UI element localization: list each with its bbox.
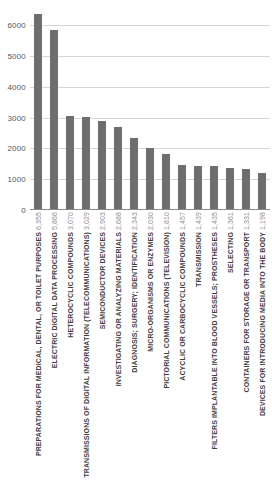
x-label-slot: CONTAINERS FOR STORAGE OR TRANSPORT 1,33… (238, 212, 254, 488)
x-tick-label-category: TRANSMISSIONS OF DIGITAL INFORMATION (TE… (83, 232, 90, 478)
x-axis-labels: PREPARATIONS FOR MEDICAL, DENTAL, OR TOI… (30, 212, 270, 488)
x-tick-label: CONTAINERS FOR STORAGE OR TRANSPORT 1,33… (243, 212, 250, 392)
bar[interactable] (258, 173, 266, 210)
x-tick-label: DEVICES FOR INTRODUCING MEDIA INTO THE B… (259, 212, 266, 416)
bar[interactable] (210, 166, 218, 210)
y-tick-label: 5000 (7, 52, 26, 61)
x-label-slot: MICRO-ORGANISMS OR ENZYMES 2,030 (142, 212, 158, 488)
x-tick-label-category: SEMICONDUCTOR DEVICES (99, 232, 106, 329)
x-tick-label-value: 6,355 (35, 212, 42, 232)
y-tick-label: 4000 (7, 82, 26, 91)
x-tick-label: TRANSMISSION 1,439 (195, 212, 202, 287)
x-tick-label-value: 1,439 (195, 212, 202, 232)
y-axis: 0100020003000400050006000 (0, 0, 30, 220)
x-tick-label-category: TRANSMISSION (195, 232, 202, 287)
x-tick-label-category: ACYCLIC OR CARBOCYCLIC COMPOUNDS (179, 232, 186, 381)
x-tick-label: INVESTIGATING OR ANALYZING MATERIALS 2,6… (115, 212, 122, 386)
x-label-slot: HETEROCYCLIC COMPOUNDS 3,070 (62, 212, 78, 488)
bars-group (30, 10, 270, 210)
x-label-slot: DIAGNOSIS; SURGERY; IDENTIFICATION 2,343 (126, 212, 142, 488)
x-tick-label-category: ELECTRIC DIGITAL DATA PROCESSING (51, 232, 58, 368)
x-tick-label-category: DEVICES FOR INTRODUCING MEDIA INTO THE B… (259, 232, 266, 416)
y-tick-label: 1000 (7, 175, 26, 184)
x-tick-label-value: 2,030 (147, 212, 154, 232)
x-tick-label-value: 3,029 (83, 212, 90, 232)
bar[interactable] (178, 165, 186, 210)
y-tick-label: 3000 (7, 113, 26, 122)
x-tick-label: TRANSMISSIONS OF DIGITAL INFORMATION (TE… (83, 212, 90, 478)
x-label-slot: TRANSMISSION 1,439 (190, 212, 206, 488)
x-axis-line (30, 209, 270, 210)
x-label-slot: INVESTIGATING OR ANALYZING MATERIALS 2,6… (110, 212, 126, 488)
bar[interactable] (226, 168, 234, 210)
bar[interactable] (114, 127, 122, 210)
x-label-slot: PREPARATIONS FOR MEDICAL, DENTAL, OR TOI… (30, 212, 46, 488)
bar[interactable] (130, 138, 138, 210)
x-tick-label-value: 1,361 (227, 212, 234, 232)
x-tick-label-value: 2,343 (131, 212, 138, 232)
x-tick-label-category: SELECTING (227, 232, 234, 273)
plot-area (30, 10, 270, 210)
x-tick-label-value: 1,435 (211, 212, 218, 232)
x-tick-label-category: DIAGNOSIS; SURGERY; IDENTIFICATION (131, 232, 138, 373)
x-label-slot: TRANSMISSIONS OF DIGITAL INFORMATION (TE… (78, 212, 94, 488)
x-tick-label-category: MICRO-ORGANISMS OR ENZYMES (147, 232, 154, 352)
x-tick-label: FILTERS IMPLANTABLE INTO BLOOD VESSELS; … (211, 212, 218, 449)
x-tick-label-category: HETEROCYCLIC COMPOUNDS (67, 232, 74, 338)
bar[interactable] (162, 154, 170, 210)
bar[interactable] (82, 117, 90, 210)
x-tick-label-category: PREPARATIONS FOR MEDICAL, DENTAL, OR TOI… (35, 232, 42, 456)
x-tick-label-value: 1,331 (243, 212, 250, 232)
x-tick-label: ACYCLIC OR CARBOCYCLIC COMPOUNDS 1,457 (179, 212, 186, 381)
x-tick-label: SEMICONDUCTOR DEVICES 2,903 (99, 212, 106, 329)
bar[interactable] (66, 116, 74, 210)
bar[interactable] (98, 121, 106, 210)
x-tick-label-category: INVESTIGATING OR ANALYZING MATERIALS (115, 232, 122, 386)
x-label-slot: FILTERS IMPLANTABLE INTO BLOOD VESSELS; … (206, 212, 222, 488)
bar[interactable] (194, 166, 202, 210)
x-label-slot: SELECTING 1,361 (222, 212, 238, 488)
x-tick-label: PICTORIAL COMMUNICATIONS (TELEVISION) 1,… (163, 212, 170, 389)
y-tick-label: 2000 (7, 144, 26, 153)
x-tick-label: HETEROCYCLIC COMPOUNDS 3,070 (67, 212, 74, 338)
x-tick-label-category: CONTAINERS FOR STORAGE OR TRANSPORT (243, 232, 250, 392)
x-tick-label: MICRO-ORGANISMS OR ENZYMES 2,030 (147, 212, 154, 352)
x-label-slot: ELECTRIC DIGITAL DATA PROCESSING 5,866 (46, 212, 62, 488)
bar[interactable] (146, 148, 154, 210)
x-tick-label: SELECTING 1,361 (227, 212, 234, 273)
bar[interactable] (34, 14, 42, 210)
x-tick-label: ELECTRIC DIGITAL DATA PROCESSING 5,866 (51, 212, 58, 368)
x-label-slot: DEVICES FOR INTRODUCING MEDIA INTO THE B… (254, 212, 270, 488)
x-label-slot: ACYCLIC OR CARBOCYCLIC COMPOUNDS 1,457 (174, 212, 190, 488)
bar[interactable] (50, 30, 58, 210)
x-tick-label: DIAGNOSIS; SURGERY; IDENTIFICATION 2,343 (131, 212, 138, 373)
x-label-slot: SEMICONDUCTOR DEVICES 2,903 (94, 212, 110, 488)
x-tick-label-category: FILTERS IMPLANTABLE INTO BLOOD VESSELS; … (211, 232, 218, 449)
y-tick-label: 0 (21, 206, 26, 215)
x-tick-label-category: PICTORIAL COMMUNICATIONS (TELEVISION) (163, 232, 170, 389)
x-label-slot: PICTORIAL COMMUNICATIONS (TELEVISION) 1,… (158, 212, 174, 488)
bar[interactable] (242, 169, 250, 210)
x-tick-label-value: 5,866 (51, 212, 58, 232)
y-tick-label: 6000 (7, 21, 26, 30)
x-tick-label-value: 1,810 (163, 212, 170, 232)
x-tick-label-value: 3,070 (67, 212, 74, 232)
x-tick-label: PREPARATIONS FOR MEDICAL, DENTAL, OR TOI… (35, 212, 42, 456)
x-tick-label-value: 1,457 (179, 212, 186, 232)
x-tick-label-value: 1,198 (259, 212, 266, 232)
x-tick-label-value: 2,688 (115, 212, 122, 232)
bar-chart: 0100020003000400050006000 PREPARATIONS F… (0, 0, 272, 490)
x-tick-label-value: 2,903 (99, 212, 106, 232)
